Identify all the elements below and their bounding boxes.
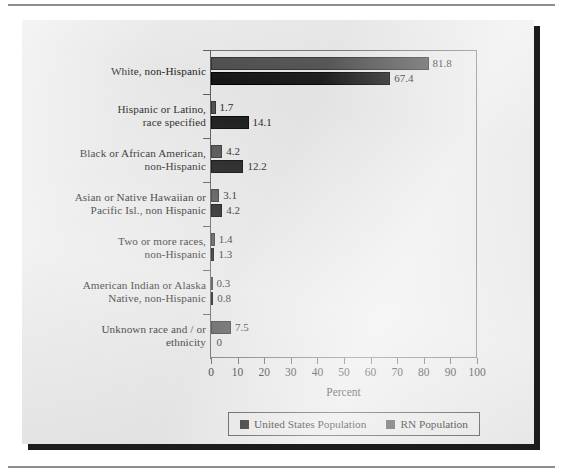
category-label-line: Asian or Native Hawaiian or <box>30 191 206 205</box>
category-axis-tick <box>203 270 211 271</box>
bar-value-label: 0.3 <box>217 277 231 290</box>
category-label-line: Native, non-Hispanic <box>30 292 206 306</box>
x-axis-tick <box>238 358 239 364</box>
x-axis-tick <box>317 358 318 364</box>
category-label-line: non-Hispanic <box>30 248 206 262</box>
x-axis-tick <box>264 358 265 364</box>
x-axis-tick <box>291 358 292 364</box>
category-label-line: Hispanic or Latino, <box>30 103 206 117</box>
category-label: White, non-Hispanic <box>30 65 206 79</box>
bar-value-label: 14.1 <box>253 116 272 129</box>
category-label-line: non-Hispanic <box>30 160 206 174</box>
legend-entry-rn-population: RN Population <box>386 418 467 430</box>
x-axis-tick-label: 100 <box>468 366 485 378</box>
x-axis-title: Percent <box>210 386 477 398</box>
figure-root: White, non-Hispanic81.867.4Hispanic or L… <box>0 0 563 474</box>
bar-value-label: 3.1 <box>223 189 237 202</box>
category-rows: White, non-Hispanic81.867.4Hispanic or L… <box>22 50 534 358</box>
bar-value-label: 4.2 <box>226 145 240 158</box>
x-axis-tick-label: 30 <box>285 366 297 378</box>
chart-legend: United States Population RN Population <box>228 412 480 436</box>
category-label-line: White, non-Hispanic <box>30 65 206 79</box>
legend-label-us: United States Population <box>254 418 366 430</box>
page-rule-bottom <box>8 466 555 468</box>
bar-value-label: 0 <box>217 336 223 349</box>
category-group: White, non-Hispanic81.867.4 <box>22 50 534 94</box>
x-axis-tick-label: 40 <box>312 366 324 378</box>
category-label-line: American Indian or Alaska <box>30 279 206 293</box>
bar-value-label: 81.8 <box>433 57 452 70</box>
legend-swatch-icon-rn <box>386 420 395 429</box>
category-axis-tick <box>203 138 211 139</box>
legend-label-rn: RN Population <box>400 418 467 430</box>
bar-us <box>211 72 390 85</box>
category-label-line: ethnicity <box>30 336 206 350</box>
x-axis-tick <box>424 358 425 364</box>
x-axis-tick-label: 90 <box>445 366 457 378</box>
bar-value-label: 7.5 <box>235 321 249 334</box>
category-group: American Indian or AlaskaNative, non-His… <box>22 270 534 314</box>
category-label: Black or African American,non-Hispanic <box>30 147 206 174</box>
bar-value-label: 1.4 <box>219 233 233 246</box>
bar-value-label: 67.4 <box>394 72 413 85</box>
x-axis-tick <box>371 358 372 364</box>
category-group: Unknown race and / orethnicity7.50 <box>22 314 534 358</box>
x-axis-tick-label: 50 <box>338 366 350 378</box>
category-group: Black or African American,non-Hispanic4.… <box>22 138 534 182</box>
x-axis-tick <box>211 358 212 364</box>
bar-value-label: 0.8 <box>217 292 231 305</box>
category-axis-tick <box>203 94 211 95</box>
category-axis-tick <box>203 314 211 315</box>
bar-us <box>211 160 243 173</box>
bar-us <box>211 116 249 129</box>
category-group: Hispanic or Latino,race specified1.714.1 <box>22 94 534 138</box>
x-axis-tick-label: 0 <box>208 366 214 378</box>
bar-value-label: 1.3 <box>218 248 232 261</box>
bar-rn <box>211 321 231 334</box>
bar-rn <box>211 233 215 246</box>
bar-value-label: 4.2 <box>226 204 240 217</box>
chart-panel: White, non-Hispanic81.867.4Hispanic or L… <box>22 20 534 444</box>
category-axis-tick <box>203 182 211 183</box>
x-axis-tick <box>397 358 398 364</box>
bar-value-label: 12.2 <box>247 160 266 173</box>
x-axis-tick-label: 60 <box>365 366 377 378</box>
x-axis-tick-label: 20 <box>258 366 270 378</box>
page-rule-top <box>8 4 555 6</box>
bar-rn <box>211 189 219 202</box>
bar-rn <box>211 145 222 158</box>
category-label: Unknown race and / orethnicity <box>30 323 206 350</box>
category-label: Asian or Native Hawaiian orPacific Isl.,… <box>30 191 206 218</box>
category-label-line: race specified <box>30 116 206 130</box>
bar-rn <box>211 57 429 70</box>
x-axis-tick-label: 80 <box>418 366 430 378</box>
bar-us <box>211 292 213 305</box>
x-axis-tick <box>344 358 345 364</box>
category-label: Hispanic or Latino,race specified <box>30 103 206 130</box>
x-axis-tick <box>477 358 478 364</box>
category-label: American Indian or AlaskaNative, non-His… <box>30 279 206 306</box>
category-label: Two or more races,non-Hispanic <box>30 235 206 262</box>
x-axis-tick-label: 70 <box>391 366 403 378</box>
category-group: Two or more races,non-Hispanic1.41.3 <box>22 226 534 270</box>
category-axis-tick <box>203 50 211 51</box>
bar-us <box>211 204 222 217</box>
category-label-line: Unknown race and / or <box>30 323 206 337</box>
bar-rn <box>211 277 213 290</box>
legend-swatch-icon-us <box>240 420 249 429</box>
category-group: Asian or Native Hawaiian orPacific Isl.,… <box>22 182 534 226</box>
bar-rn <box>211 101 216 114</box>
x-axis-tick <box>450 358 451 364</box>
bar-us <box>211 248 214 261</box>
bar-value-label: 1.7 <box>220 101 234 114</box>
category-label-line: Black or African American, <box>30 147 206 161</box>
category-label-line: Two or more races, <box>30 235 206 249</box>
category-axis-tick <box>203 226 211 227</box>
legend-entry-us-population: United States Population <box>240 418 366 430</box>
category-label-line: Pacific Isl., non Hispanic <box>30 204 206 218</box>
x-axis-tick-label: 10 <box>232 366 244 378</box>
